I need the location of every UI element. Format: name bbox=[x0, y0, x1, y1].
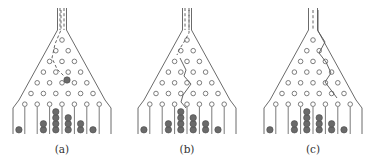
peg bbox=[41, 91, 46, 96]
peg bbox=[23, 102, 28, 107]
peg bbox=[305, 91, 310, 96]
stacked-ball bbox=[178, 121, 184, 127]
funnel-left-wall bbox=[138, 8, 183, 134]
peg bbox=[78, 91, 83, 96]
peg bbox=[305, 48, 310, 53]
ball-trajectory-solid bbox=[318, 10, 337, 98]
stacked-ball bbox=[53, 121, 59, 127]
stacked-ball bbox=[328, 121, 334, 127]
peg bbox=[185, 59, 190, 64]
stacked-ball bbox=[304, 127, 310, 133]
peg bbox=[54, 48, 59, 53]
stacked-ball bbox=[53, 127, 59, 133]
stacked-ball bbox=[316, 115, 322, 121]
peg bbox=[60, 59, 65, 64]
peg bbox=[41, 70, 46, 75]
stacked-ball bbox=[316, 121, 322, 127]
peg bbox=[311, 102, 316, 107]
stacked-ball bbox=[202, 127, 208, 133]
peg bbox=[47, 81, 52, 86]
peg bbox=[292, 91, 297, 96]
peg bbox=[72, 59, 77, 64]
peg bbox=[191, 48, 196, 53]
peg bbox=[172, 81, 177, 86]
peg bbox=[78, 70, 83, 75]
peg bbox=[85, 102, 90, 107]
stacked-ball bbox=[178, 127, 184, 133]
peg bbox=[72, 81, 77, 86]
peg bbox=[29, 91, 34, 96]
funnel-right-wall bbox=[67, 8, 112, 134]
peg bbox=[216, 91, 221, 96]
peg bbox=[66, 48, 71, 53]
peg bbox=[197, 81, 202, 86]
stacked-ball bbox=[304, 115, 310, 121]
peg bbox=[311, 59, 316, 64]
stacked-ball bbox=[90, 127, 96, 133]
peg bbox=[274, 102, 279, 107]
peg bbox=[222, 102, 227, 107]
peg bbox=[203, 91, 208, 96]
stacked-ball bbox=[202, 121, 208, 127]
peg bbox=[286, 81, 291, 86]
funnel-right-wall bbox=[318, 8, 363, 134]
stacked-ball bbox=[40, 121, 46, 127]
peg bbox=[317, 70, 322, 75]
stacked-ball bbox=[165, 121, 171, 127]
peg bbox=[336, 102, 341, 107]
stacked-ball bbox=[165, 127, 171, 133]
peg bbox=[197, 102, 202, 107]
stacked-ball bbox=[77, 127, 83, 133]
stacked-ball bbox=[291, 127, 297, 133]
stacked-ball bbox=[53, 109, 59, 115]
peg bbox=[148, 102, 153, 107]
panel-a bbox=[13, 8, 111, 134]
peg bbox=[336, 81, 341, 86]
peg bbox=[348, 102, 353, 107]
peg bbox=[54, 91, 59, 96]
peg bbox=[298, 59, 303, 64]
peg bbox=[54, 70, 59, 75]
stacked-ball bbox=[77, 121, 83, 127]
peg bbox=[305, 70, 310, 75]
falling-ball bbox=[64, 77, 70, 83]
peg bbox=[179, 91, 184, 96]
peg bbox=[47, 102, 52, 107]
stacked-ball bbox=[65, 121, 71, 127]
peg bbox=[280, 91, 285, 96]
peg bbox=[311, 38, 316, 43]
peg bbox=[191, 70, 196, 75]
stacked-ball bbox=[178, 115, 184, 121]
peg bbox=[35, 102, 40, 107]
peg bbox=[185, 38, 190, 43]
peg bbox=[47, 59, 52, 64]
stacked-ball bbox=[16, 127, 22, 133]
peg bbox=[286, 102, 291, 107]
stacked-ball bbox=[190, 121, 196, 127]
stacked-ball bbox=[190, 115, 196, 121]
stacked-ball bbox=[328, 127, 334, 133]
funnel-left-wall bbox=[13, 8, 58, 134]
stacked-ball bbox=[304, 121, 310, 127]
peg bbox=[197, 59, 202, 64]
panel-a-label: (a) bbox=[55, 143, 69, 155]
funnel-left-wall bbox=[264, 8, 309, 134]
peg bbox=[166, 91, 171, 96]
galton-board-figure: (a) (b) (c) bbox=[0, 0, 378, 164]
peg bbox=[160, 102, 165, 107]
peg bbox=[342, 91, 347, 96]
peg bbox=[66, 70, 71, 75]
peg bbox=[72, 102, 77, 107]
stacked-ball bbox=[291, 121, 297, 127]
stacked-ball bbox=[316, 127, 322, 133]
peg bbox=[172, 102, 177, 107]
stacked-ball bbox=[65, 115, 71, 121]
stacked-ball bbox=[215, 127, 221, 133]
peg bbox=[292, 70, 297, 75]
peg bbox=[35, 81, 40, 86]
stacked-ball bbox=[40, 127, 46, 133]
peg bbox=[179, 70, 184, 75]
peg bbox=[160, 81, 165, 86]
peg bbox=[298, 102, 303, 107]
stacked-ball bbox=[178, 109, 184, 115]
